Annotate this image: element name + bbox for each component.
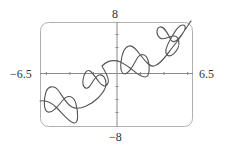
- y-max-label: 8: [112, 8, 118, 20]
- y-min-label: −8: [109, 131, 122, 143]
- curve-series: [40, 21, 191, 123]
- plot-area: [0, 0, 225, 149]
- x-min-label: −6.5: [10, 68, 32, 80]
- x-max-label: 6.5: [199, 68, 214, 80]
